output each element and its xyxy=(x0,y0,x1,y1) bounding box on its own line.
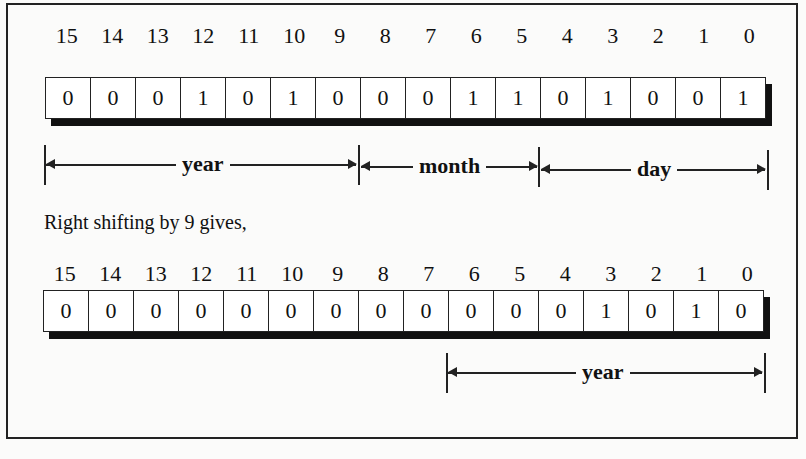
register-original: 0 0 0 1 0 1 0 0 0 1 1 0 1 0 0 1 xyxy=(45,77,766,119)
span-end-tick xyxy=(764,353,766,393)
bit-cell: 0 xyxy=(46,78,91,119)
bit-position-row-1: 15 14 13 12 11 10 9 8 7 6 5 4 3 2 1 0 xyxy=(44,24,772,48)
bit-position: 5 xyxy=(499,24,545,48)
bit-cell: 1 xyxy=(496,78,541,119)
shift-caption: Right shifting by 9 gives, xyxy=(44,211,247,234)
arrow-right-icon xyxy=(348,159,357,169)
bit-cell: 1 xyxy=(586,78,631,119)
bit-position: 4 xyxy=(545,24,591,48)
bit-position: 7 xyxy=(406,262,452,286)
bit-cell: 0 xyxy=(314,291,359,332)
field-span-month: month xyxy=(359,147,540,187)
register-shifted: 0 0 0 0 0 0 0 0 0 0 0 0 1 0 1 0 xyxy=(43,290,764,332)
field-span-shifted-year: year xyxy=(446,353,766,393)
arrow-right-icon xyxy=(754,367,763,377)
bit-position: 3 xyxy=(590,24,636,48)
bit-cell: 1 xyxy=(674,291,719,332)
bit-cell: 0 xyxy=(179,291,224,332)
bit-position: 4 xyxy=(543,262,589,286)
bit-position: 5 xyxy=(497,262,543,286)
bit-cell: 0 xyxy=(631,78,676,119)
bit-cell: 1 xyxy=(271,78,316,119)
bit-position: 6 xyxy=(454,24,500,48)
span-end-tick xyxy=(767,150,769,190)
bit-cell: 0 xyxy=(224,291,269,332)
bit-cell: 0 xyxy=(719,291,764,332)
bit-cell: 1 xyxy=(584,291,629,332)
bit-position: 10 xyxy=(270,262,316,286)
bit-cell: 0 xyxy=(91,78,136,119)
bit-position: 14 xyxy=(90,24,136,48)
bit-cell: 0 xyxy=(676,78,721,119)
bit-position: 13 xyxy=(135,24,181,48)
bit-position: 12 xyxy=(181,24,227,48)
bit-position: 1 xyxy=(679,262,725,286)
bit-cell: 0 xyxy=(89,291,134,332)
field-label: day xyxy=(631,156,677,182)
bit-cell: 0 xyxy=(316,78,361,119)
bit-position: 14 xyxy=(88,262,134,286)
bit-cell: 0 xyxy=(44,291,89,332)
bit-position: 12 xyxy=(179,262,225,286)
bit-cell: 1 xyxy=(451,78,496,119)
bit-cell: 0 xyxy=(449,291,494,332)
arrow-right-icon xyxy=(529,161,538,171)
bit-cell: 0 xyxy=(404,291,449,332)
bit-position: 8 xyxy=(363,24,409,48)
bit-cell: 1 xyxy=(721,78,766,119)
bit-position-row-2: 15 14 13 12 11 10 9 8 7 6 5 4 3 2 1 0 xyxy=(42,262,770,286)
field-label: year xyxy=(576,359,630,385)
bit-cell: 0 xyxy=(269,291,314,332)
field-span-year: year xyxy=(44,145,360,185)
bit-position: 10 xyxy=(272,24,318,48)
bit-cells-1: 0 0 0 1 0 1 0 0 0 1 1 0 1 0 0 1 xyxy=(45,77,766,119)
bit-position: 9 xyxy=(317,24,363,48)
field-label: month xyxy=(413,153,486,179)
bit-position: 13 xyxy=(133,262,179,286)
bit-position: 3 xyxy=(588,262,634,286)
bit-position: 1 xyxy=(681,24,727,48)
bit-position: 15 xyxy=(44,24,90,48)
bit-position: 15 xyxy=(42,262,88,286)
bit-position: 8 xyxy=(361,262,407,286)
bit-position: 2 xyxy=(636,24,682,48)
bit-position: 7 xyxy=(408,24,454,48)
bit-position: 6 xyxy=(452,262,498,286)
bit-cell: 0 xyxy=(134,291,179,332)
bit-cell: 0 xyxy=(494,291,539,332)
bit-position: 9 xyxy=(315,262,361,286)
bit-position: 2 xyxy=(634,262,680,286)
arrow-right-icon xyxy=(757,164,766,174)
bit-cell: 0 xyxy=(406,78,451,119)
bit-cell: 0 xyxy=(539,291,584,332)
bit-cell: 0 xyxy=(136,78,181,119)
bit-cell: 0 xyxy=(541,78,586,119)
bit-position: 0 xyxy=(727,24,773,48)
bit-position: 11 xyxy=(224,262,270,286)
bit-cell: 1 xyxy=(181,78,226,119)
bit-cells-2: 0 0 0 0 0 0 0 0 0 0 0 0 1 0 1 0 xyxy=(43,290,764,332)
bit-cell: 0 xyxy=(629,291,674,332)
bit-position: 0 xyxy=(725,262,771,286)
bit-cell: 0 xyxy=(226,78,271,119)
field-span-day: day xyxy=(539,150,769,190)
bit-cell: 0 xyxy=(359,291,404,332)
bit-position: 11 xyxy=(226,24,272,48)
field-label: year xyxy=(176,151,230,177)
bit-cell: 0 xyxy=(361,78,406,119)
